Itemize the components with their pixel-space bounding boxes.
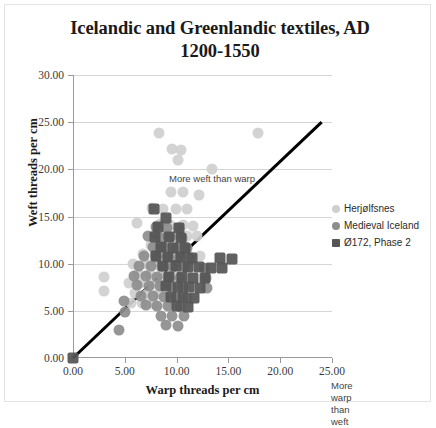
legend-marker-icon [332, 239, 340, 247]
y-axis-tick-label: 15.00 [38, 211, 64, 223]
x-axis-tick [332, 358, 333, 363]
legend-item-label: Herjølfsnes [344, 203, 395, 214]
y-axis-tick-label: 30.00 [38, 69, 64, 81]
x-axis-tick-label: 15.00 [215, 365, 241, 377]
plot-area: 0.005.0010.0015.0020.0025.0030.000.005.0… [73, 75, 332, 358]
x-axis-tick-label: 5.00 [115, 365, 135, 377]
x-axis-tick [228, 358, 229, 363]
y-axis-tick-label: 5.00 [44, 305, 64, 317]
legend-item-label: Medieval Iceland [344, 220, 419, 231]
x-axis-tick [177, 358, 178, 363]
x-axis-tick-label: 10.00 [164, 365, 190, 377]
chart-title: Icelandic and Greenlandic textiles, AD 1… [35, 17, 405, 63]
equal-warp-weft-line [73, 75, 332, 358]
y-axis-tick-label: 0.00 [44, 352, 64, 364]
x-axis-tick-label: 20.00 [267, 365, 293, 377]
y-axis-title: Weft threads per cm [26, 93, 41, 253]
legend-item-herj[interactable]: Herjølfsnes [332, 201, 436, 216]
annotation-more-weft-than-warp: More weft than warp [169, 173, 255, 185]
x-axis-tick [280, 358, 281, 363]
x-axis-tick-label: 25.00 [319, 365, 345, 377]
x-axis-title: Warp threads per cm [73, 383, 332, 398]
x-axis-tick-label: 0.00 [63, 365, 83, 377]
x-axis-tick [125, 358, 126, 363]
chart-legend: HerjølfsnesMedieval IcelandØ172, Phase 2 [332, 201, 436, 252]
y-axis-tick-label: 25.00 [38, 116, 64, 128]
chart-container: Icelandic and Greenlandic textiles, AD 1… [4, 4, 431, 402]
legend-marker-icon [332, 222, 340, 230]
legend-marker-icon [332, 205, 340, 213]
y-axis-tick-label: 10.00 [38, 258, 64, 270]
y-axis-tick-label: 20.00 [38, 163, 64, 175]
legend-item-label: Ø172, Phase 2 [344, 237, 411, 248]
legend-item-o172[interactable]: Ø172, Phase 2 [332, 235, 436, 250]
legend-item-iceland[interactable]: Medieval Iceland [332, 218, 436, 233]
chart-title-line-2: 1200-1550 [180, 41, 259, 61]
chart-title-line-1: Icelandic and Greenlandic textiles, AD [70, 18, 370, 38]
annotation-more-warp-than-weft: More warp than weft [331, 380, 353, 428]
